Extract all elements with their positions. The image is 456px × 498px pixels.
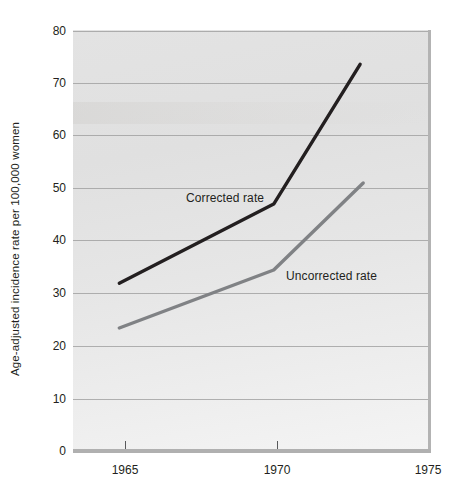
x-tick-mark-1965 xyxy=(125,441,126,449)
gridline-20 xyxy=(73,346,428,347)
x-tick-label-1965: 1965 xyxy=(95,463,155,477)
x-tick-label-1970: 1970 xyxy=(247,463,307,477)
y-tick-label-80: 80 xyxy=(30,24,66,38)
gridline-70 xyxy=(73,83,428,84)
y-tick-label-20: 20 xyxy=(30,339,66,353)
y-tick-label-0: 0 xyxy=(30,444,66,458)
gridline-40 xyxy=(73,240,428,241)
y-tick-label-60: 60 xyxy=(30,128,66,142)
x-axis-line xyxy=(73,449,431,453)
chart-figure: Age-adjusted incidence rate per 100,000 … xyxy=(0,0,456,498)
y-axis-title: Age-adjusted incidence rate per 100,000 … xyxy=(0,0,30,498)
gridline-30 xyxy=(73,293,428,294)
gridline-50 xyxy=(73,188,428,189)
plot-right-boundary xyxy=(428,30,431,452)
annotation-corrected-rate: Corrected rate xyxy=(186,191,264,205)
annotation-uncorrected-rate: Uncorrected rate xyxy=(286,269,377,283)
gridline-10 xyxy=(73,399,428,400)
y-tick-label-50: 50 xyxy=(30,181,66,195)
y-tick-label-10: 10 xyxy=(30,392,66,406)
gridline-60 xyxy=(73,135,428,136)
x-tick-label-1975: 1975 xyxy=(398,463,456,477)
y-tick-label-30: 30 xyxy=(30,286,66,300)
gridline-80 xyxy=(73,31,428,32)
y-tick-label-70: 70 xyxy=(30,76,66,90)
plot-area xyxy=(73,30,428,452)
x-tick-mark-1970 xyxy=(277,441,278,449)
y-tick-label-40: 40 xyxy=(30,233,66,247)
